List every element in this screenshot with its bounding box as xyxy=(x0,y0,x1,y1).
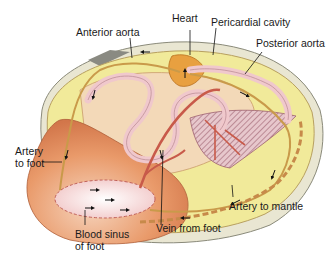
label-artery-to-foot-line1: Artery xyxy=(15,145,43,157)
label-blood-sinus-line1: Blood sinus xyxy=(75,228,129,240)
label-anterior-aorta: Anterior aorta xyxy=(76,26,140,38)
label-artery-to-foot-line2: to foot xyxy=(15,157,44,169)
label-pericardial-cavity: Pericardial cavity xyxy=(211,16,290,28)
label-blood-sinus-line2: of foot xyxy=(75,240,104,252)
label-heart: Heart xyxy=(172,12,198,24)
label-vein-from-foot: Vein from foot xyxy=(156,222,221,234)
label-posterior-aorta: Posterior aorta xyxy=(256,37,325,49)
clam-circulation-diagram: Anterior aorta Heart Pericardial cavity … xyxy=(0,0,333,261)
label-artery-to-mantle: Artery to mantle xyxy=(229,200,303,212)
